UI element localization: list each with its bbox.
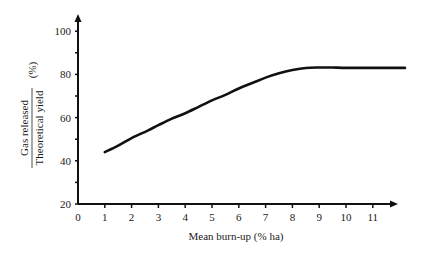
y-tick-label: 100 [55, 25, 72, 37]
axes [75, 14, 399, 208]
x-tick-label: 5 [209, 211, 215, 223]
y-axis-ticks: 20406080100 [55, 25, 80, 210]
x-tick-label: 4 [182, 211, 188, 223]
x-axis-label: Mean burn-up (% ha) [189, 230, 284, 243]
y-tick-label: 60 [60, 112, 72, 124]
y-tick-label: 80 [60, 68, 72, 80]
x-tick-label: 6 [236, 211, 242, 223]
x-tick-label: 3 [156, 211, 162, 223]
y-axis-label-denominator: Theoretical yield [33, 90, 45, 165]
x-tick-label: 0 [75, 211, 81, 223]
y-axis-label: Gas released Theoretical yield (%) [18, 61, 45, 168]
y-axis-arrow-icon [75, 14, 82, 22]
y-axis-label-unit: (%) [26, 61, 39, 78]
x-tick-label: 8 [290, 211, 296, 223]
x-tick-label: 7 [263, 211, 269, 223]
x-axis-arrow-icon [390, 201, 398, 208]
x-tick-label: 2 [129, 211, 135, 223]
x-tick-label: 11 [368, 211, 379, 223]
y-tick-label: 20 [60, 198, 72, 210]
x-axis-ticks: 01234567891011 [75, 203, 378, 223]
x-tick-label: 9 [316, 211, 322, 223]
x-tick-label: 10 [341, 211, 353, 223]
x-tick-label: 1 [102, 211, 108, 223]
gas-release-chart: 20406080100 01234567891011 Mean burn-up … [0, 0, 421, 253]
data-line [105, 67, 405, 152]
y-tick-label: 40 [60, 155, 72, 167]
y-axis-label-numerator: Gas released [18, 100, 30, 156]
